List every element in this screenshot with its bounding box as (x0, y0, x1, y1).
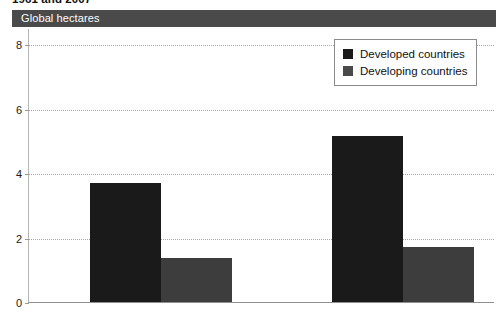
bar-1961-developed (90, 183, 161, 302)
y-axis-tick (25, 239, 29, 240)
y-axis-tick-label: 0 (16, 297, 22, 309)
y-axis-tick-label: 4 (16, 168, 22, 180)
square-swatch-icon (343, 49, 353, 59)
legend-item-label: Developed countries (360, 48, 465, 60)
bar-2007-developed (332, 136, 403, 302)
bar-2007-developing (403, 247, 474, 302)
y-axis-tick (25, 303, 29, 304)
unit-header-band: Global hectares (12, 10, 496, 27)
gridline (29, 110, 494, 111)
y-axis-tick (25, 174, 29, 175)
legend-item-label: Developing countries (360, 65, 467, 77)
unit-label: Global hectares (21, 12, 100, 24)
y-axis-tick-label: 2 (16, 233, 22, 245)
page-title: 1961 and 2007 (12, 0, 91, 5)
y-axis-tick (25, 45, 29, 46)
legend-item: Developing countries (343, 62, 467, 79)
bar-1961-developing (161, 258, 232, 302)
y-axis-tick (25, 110, 29, 111)
gridline (29, 174, 494, 175)
y-axis-tick-label: 8 (16, 39, 22, 51)
y-axis-tick-label: 6 (16, 104, 22, 116)
chart-legend: Developed countriesDeveloping countries (334, 39, 477, 86)
legend-item: Developed countries (343, 45, 467, 62)
square-swatch-icon (343, 66, 353, 76)
